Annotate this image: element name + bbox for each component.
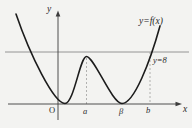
- y-axis-label: y: [46, 4, 52, 14]
- y-axis-arrow-icon: [56, 11, 61, 17]
- tick-label-beta: β: [118, 106, 124, 116]
- function-curve: [16, 14, 160, 104]
- curve-equation-label: y=f(x): [138, 16, 163, 27]
- tick-label-b: b: [146, 105, 150, 115]
- function-plot-figure: y x O a β b y=f(x) y=8: [0, 0, 192, 128]
- x-axis-label: x: [182, 104, 188, 114]
- reference-line-label: y=8: [152, 55, 168, 65]
- tick-label-a: a: [83, 106, 87, 116]
- plot-canvas: y x O a β b y=f(x) y=8: [0, 0, 192, 128]
- x-axis-arrow-icon: [176, 102, 183, 107]
- origin-label: O: [49, 105, 55, 115]
